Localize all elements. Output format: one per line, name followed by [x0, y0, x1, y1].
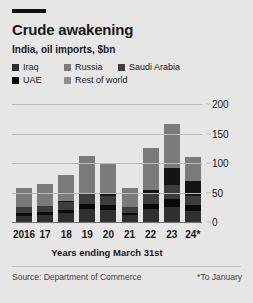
bar-22[interactable]	[143, 148, 159, 222]
x-axis-title: Years ending March 31st	[12, 247, 202, 258]
bar-23[interactable]	[164, 124, 180, 222]
x-tick-label: 24*	[185, 229, 200, 240]
legend-row: UAERest of world	[12, 75, 212, 88]
bar-segment-iraq	[100, 210, 116, 222]
bar-segment-uae	[164, 199, 180, 207]
bar-segment-russia	[164, 168, 180, 186]
bar-segment-saudi-arabia	[143, 193, 159, 204]
y-tick-mark	[206, 133, 211, 134]
bar-segment-rest-of-world	[16, 188, 32, 207]
chart-legend: IraqRussiaSaudi ArabiaUAERest of world	[12, 62, 212, 88]
legend-label: Saudi Arabia	[129, 63, 180, 72]
axis-baseline	[12, 222, 202, 223]
top-rule	[12, 9, 46, 13]
bar-segment-rest-of-world	[143, 148, 159, 190]
bar-segment-rest-of-world	[58, 175, 74, 202]
legend-swatch-russia	[64, 64, 71, 71]
x-tick-label: 2016	[13, 229, 35, 240]
x-tick-label: 17	[40, 229, 51, 240]
bar-segment-iraq	[122, 215, 138, 222]
y-tick-label: 150	[212, 128, 229, 139]
bar-segment-rest-of-world	[122, 188, 138, 206]
page-title: Crude awakening	[12, 21, 133, 38]
x-tick-label: 18	[61, 229, 72, 240]
footnote: *To January	[197, 272, 242, 282]
gridline	[12, 104, 202, 105]
legend-item-rest-of-world[interactable]: Rest of world	[64, 76, 128, 85]
x-tick-label: 22	[145, 229, 156, 240]
chart-card: Crude awakening India, oil imports, $bn …	[0, 0, 253, 303]
y-tick-mark	[206, 104, 211, 105]
bar-segment-rest-of-world	[185, 157, 201, 181]
legend-swatch-rest-of-world	[64, 77, 71, 84]
plot-area	[12, 100, 202, 226]
bar-segment-saudi-arabia	[79, 194, 95, 204]
bar-segment-rest-of-world	[79, 156, 95, 193]
legend-swatch-uae	[12, 77, 19, 84]
footer-divider	[12, 266, 241, 267]
x-tick-label: 20	[103, 229, 114, 240]
y-tick-label: 0	[212, 217, 218, 228]
bar-segment-saudi-arabia	[185, 196, 201, 205]
source-note: Source: Department of Commerce	[12, 272, 141, 282]
x-tick-label: 21	[124, 229, 135, 240]
y-tick-label: 200	[212, 99, 229, 110]
legend-label: Rest of world	[75, 76, 128, 85]
bar-segment-saudi-arabia	[100, 196, 116, 205]
bar-segment-iraq	[58, 213, 74, 222]
legend-item-saudi-arabia[interactable]: Saudi Arabia	[118, 63, 180, 72]
legend-label: Iraq	[23, 63, 39, 72]
chart-subtitle: India, oil imports, $bn	[12, 44, 115, 55]
legend-swatch-saudi-arabia	[118, 64, 125, 71]
bar-24star[interactable]	[185, 157, 201, 222]
y-tick-label: 50	[212, 187, 223, 198]
bar-segment-iraq	[37, 215, 53, 222]
legend-label: Russia	[75, 63, 103, 72]
legend-label: UAE	[23, 76, 42, 85]
bar-segment-iraq	[185, 211, 201, 222]
legend-item-uae[interactable]: UAE	[12, 76, 42, 85]
y-tick-label: 100	[212, 158, 229, 169]
bar-segment-rest-of-world	[164, 124, 180, 168]
bar-18[interactable]	[58, 175, 74, 222]
y-tick-mark	[206, 163, 211, 164]
bar-segment-rest-of-world	[100, 164, 116, 194]
x-tick-label: 23	[166, 229, 177, 240]
legend-row: IraqRussiaSaudi Arabia	[12, 62, 212, 75]
legend-item-iraq[interactable]: Iraq	[12, 63, 39, 72]
gridline	[12, 134, 202, 135]
legend-item-russia[interactable]: Russia	[64, 63, 103, 72]
x-axis: 20161718192021222324*	[12, 229, 202, 243]
y-tick-mark	[206, 222, 211, 223]
bar-segment-iraq	[143, 209, 159, 222]
gridline	[12, 193, 202, 194]
bar-17[interactable]	[37, 184, 53, 222]
gridline	[12, 163, 202, 164]
bar-segment-rest-of-world	[37, 184, 53, 205]
y-tick-mark	[206, 192, 211, 193]
bar-segment-iraq	[79, 209, 95, 222]
bar-segment-iraq	[164, 207, 180, 222]
x-tick-label: 19	[82, 229, 93, 240]
legend-swatch-iraq	[12, 64, 19, 71]
y-axis: 050100150200	[206, 100, 252, 226]
bar-19[interactable]	[79, 156, 95, 222]
bar-segment-saudi-arabia	[58, 202, 74, 210]
